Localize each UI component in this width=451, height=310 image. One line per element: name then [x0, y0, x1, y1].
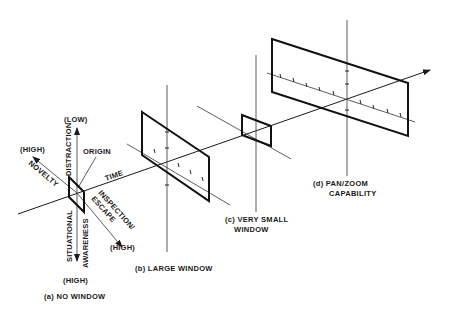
panel-d-caption-1: (d) PAN/ZOOM	[313, 179, 368, 188]
panel-d-caption-2: CAPABILITY	[329, 189, 376, 198]
panel-c-very-small-window: (c) VERY SMALL WINDOW	[197, 55, 291, 234]
panel-b-ticks	[154, 132, 203, 185]
origin-window-frame	[69, 177, 84, 212]
panel-d-ticks	[280, 71, 401, 117]
panel-b-caption: (b) LARGE WINDOW	[135, 264, 213, 273]
pan-zoom-window-frame	[272, 39, 408, 136]
awareness-label: AWARENESS	[81, 218, 90, 268]
panel-b-large-window: (b) LARGE WINDOW	[127, 85, 230, 273]
large-window-frame	[142, 112, 209, 201]
origin-label: ORIGIN	[83, 147, 111, 156]
novelty-label: NOVELTY	[27, 159, 61, 189]
panel-c-caption-2: WINDOW	[234, 225, 269, 234]
panel-a-caption: (a) NO WINDOW	[44, 292, 106, 301]
origin-pointer	[79, 157, 96, 186]
situational-label: SITUATIONAL	[65, 210, 74, 262]
panel-d-pan-zoom: (d) PAN/ZOOM CAPABILITY	[267, 20, 415, 198]
inspection-end-label: (HIGH)	[110, 243, 135, 252]
awareness-end-label: (HIGH)	[63, 276, 88, 285]
panel-a-no-window: ORIGIN TIME (LOW) DISTRACTION (HIGH) NOV…	[20, 115, 137, 301]
panel-c-cross-axis	[197, 106, 291, 159]
panel-c-caption-1: (c) VERY SMALL	[225, 215, 288, 224]
novelty-end-label: (HIGH)	[20, 145, 45, 154]
distraction-label: DISTRACTION	[64, 123, 73, 176]
window-concept-diagram: ORIGIN TIME (LOW) DISTRACTION (HIGH) NOV…	[0, 0, 451, 310]
